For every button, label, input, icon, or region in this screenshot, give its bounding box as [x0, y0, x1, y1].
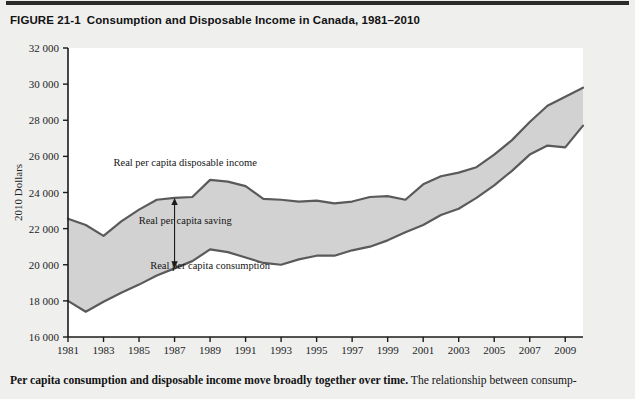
consumption-income-area-chart: 16 00018 00020 00022 00024 00026 00028 0…	[0, 36, 635, 356]
y-tick-label-26000: 26 000	[29, 150, 60, 162]
y-tick-label-30000: 30 000	[29, 78, 60, 90]
y-tick-label-16000: 16 000	[29, 331, 60, 343]
figure-number: FIGURE 21-1	[10, 14, 81, 26]
figure-page: FIGURE 21-1Consumption and Disposable In…	[0, 0, 635, 399]
y-tick-label-28000: 28 000	[29, 114, 60, 126]
x-tick-label-2007: 2007	[519, 344, 542, 356]
annotation-income-label: Real per capita disposable income	[113, 157, 257, 168]
y-tick-label-24000: 24 000	[29, 187, 60, 199]
y-tick-label-20000: 20 000	[29, 259, 60, 271]
x-tick-label-1991: 1991	[235, 344, 257, 356]
x-tick-label-1995: 1995	[306, 344, 329, 356]
x-tick-label-1985: 1985	[128, 344, 151, 356]
figure-title-text: Consumption and Disposable Income in Can…	[87, 14, 420, 26]
figure-title: FIGURE 21-1Consumption and Disposable In…	[10, 14, 610, 26]
y-tick-label-18000: 18 000	[29, 295, 60, 307]
y-tick-label-32000: 32 000	[29, 42, 60, 54]
x-tick-label-1981: 1981	[57, 344, 79, 356]
x-tick-label-1987: 1987	[164, 344, 187, 356]
x-tick-label-1993: 1993	[270, 344, 293, 356]
x-tick-label-1999: 1999	[377, 344, 400, 356]
chart-container: 16 00018 00020 00022 00024 00026 00028 0…	[0, 36, 635, 356]
caption-rest: The relationship between consump-	[408, 374, 577, 387]
annotation-saving-label: Real per capita saving	[139, 215, 233, 226]
x-tick-label-1983: 1983	[93, 344, 116, 356]
annotation-consumption-label: Real per capita consumption	[150, 260, 271, 271]
x-tick-label-2009: 2009	[554, 344, 577, 356]
top-rule	[6, 1, 629, 5]
plot-background	[68, 48, 583, 337]
y-tick-label-22000: 22 000	[29, 223, 60, 235]
caption-bold: Per capita consumption and disposable in…	[10, 374, 408, 387]
x-tick-label-2003: 2003	[448, 344, 471, 356]
y-axis-label: 2010 Dollars	[12, 164, 24, 221]
x-tick-label-1997: 1997	[341, 344, 364, 356]
x-tick-label-2001: 2001	[412, 344, 434, 356]
x-tick-label-1989: 1989	[199, 344, 222, 356]
x-tick-label-2005: 2005	[483, 344, 506, 356]
figure-caption: Per capita consumption and disposable in…	[10, 374, 627, 387]
